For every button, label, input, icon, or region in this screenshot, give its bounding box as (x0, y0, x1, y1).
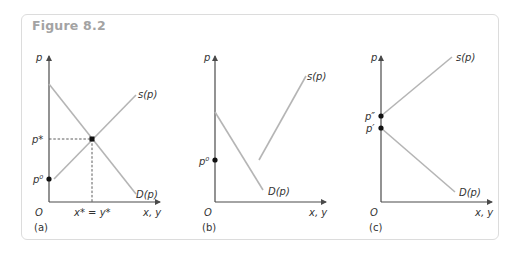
panel-c-x-axis-label: x, y (474, 207, 494, 218)
panel-c-caption: (c) (369, 222, 382, 233)
panel-b-p0-label: p⁰ (198, 156, 209, 167)
panel-c-supply-label: s(p) (456, 52, 475, 63)
panel-a: p s(p) D(p) p* p⁰ O x* = y* x, y (a) (31, 52, 162, 233)
panel-b-origin-label: O (204, 207, 212, 218)
figure-diagram: p s(p) D(p) p* p⁰ O x* = y* x, y (a) p s… (0, 0, 519, 254)
panel-b-p0-point (212, 157, 217, 162)
panel-b-demand-label: D(p) (268, 186, 290, 197)
panel-a-origin-label: O (35, 207, 43, 218)
panel-a-supply-label: s(p) (138, 89, 157, 100)
panel-a-x-tick-label: x* = y* (73, 207, 111, 218)
panel-c-origin-label: O (370, 207, 378, 218)
panel-c-supply-curve (381, 57, 452, 116)
panel-a-p0-point (46, 176, 51, 181)
panel-c-p-double-prime-label: p″ (364, 111, 375, 122)
panel-c-p-prime-point (378, 125, 383, 130)
panel-c: p s(p) D(p) p″ p′ O x, y (c) (364, 52, 494, 233)
panel-c-demand-label: D(p) (459, 187, 481, 198)
panel-c-y-axis-label: p (370, 52, 377, 63)
panel-a-p-star-label: p* (31, 134, 43, 145)
panel-b-caption: (b) (202, 222, 216, 233)
panel-b-supply-curve (259, 76, 306, 160)
panel-b-supply-label: s(p) (307, 71, 326, 82)
panel-c-demand-curve (381, 128, 455, 192)
panel-a-supply-curve (54, 95, 136, 179)
panel-c-p-prime-label: p′ (365, 123, 375, 134)
panel-b-demand-curve (215, 112, 263, 190)
panel-a-x-axis-label: x, y (142, 207, 162, 218)
panel-a-p0-label: p⁰ (32, 174, 43, 185)
panel-a-demand-label: D(p) (136, 189, 158, 200)
panel-a-y-axis-label: p (35, 52, 42, 63)
panel-c-p-double-prime-point (378, 113, 383, 118)
panel-b-x-axis-label: x, y (308, 207, 328, 218)
panel-a-equilibrium-point (90, 137, 95, 142)
panel-b: p s(p) D(p) p⁰ O x, y (b) (198, 52, 328, 233)
panel-b-y-axis-label: p (203, 52, 210, 63)
panel-a-caption: (a) (34, 222, 48, 233)
